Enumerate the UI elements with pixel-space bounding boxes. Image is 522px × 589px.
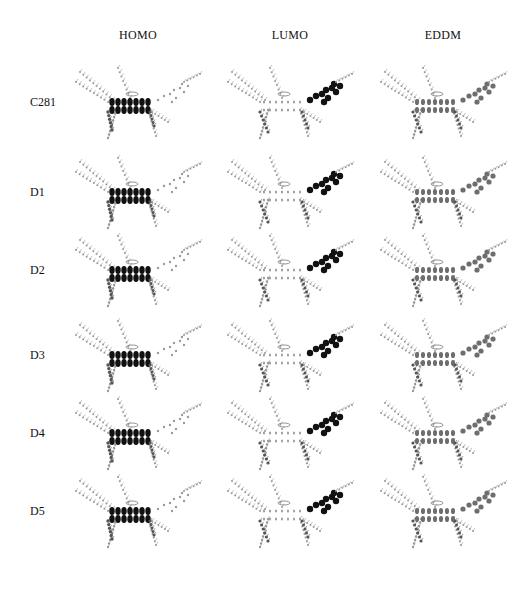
orbital-image-d3-eddm [373, 313, 513, 393]
orbital-image-d4-homo [68, 391, 208, 471]
column-header-homo: HOMO [119, 28, 157, 43]
orbital-image-d4-lumo [220, 391, 360, 471]
row-label-c281: C281 [30, 95, 56, 110]
orbital-image-c281-homo [68, 60, 208, 140]
row-label-d2: D2 [30, 263, 45, 278]
orbital-image-d1-eddm [373, 150, 513, 230]
column-header-eddm: EDDM [425, 28, 462, 43]
orbital-image-c281-lumo [220, 60, 360, 140]
row-label-d5: D5 [30, 504, 45, 519]
orbital-image-d2-lumo [220, 228, 360, 308]
row-label-d4: D4 [30, 426, 45, 441]
orbital-image-d2-homo [68, 228, 208, 308]
orbital-image-d1-lumo [220, 150, 360, 230]
orbital-image-d3-lumo [220, 313, 360, 393]
orbital-image-d5-homo [68, 469, 208, 549]
orbital-image-d2-eddm [373, 228, 513, 308]
column-header-lumo: LUMO [272, 28, 309, 43]
orbital-image-d4-eddm [373, 391, 513, 471]
orbital-image-d5-eddm [373, 469, 513, 549]
orbital-image-d5-lumo [220, 469, 360, 549]
orbital-image-c281-eddm [373, 60, 513, 140]
row-label-d3: D3 [30, 348, 45, 363]
row-label-d1: D1 [30, 185, 45, 200]
orbital-image-d1-homo [68, 150, 208, 230]
orbital-image-d3-homo [68, 313, 208, 393]
